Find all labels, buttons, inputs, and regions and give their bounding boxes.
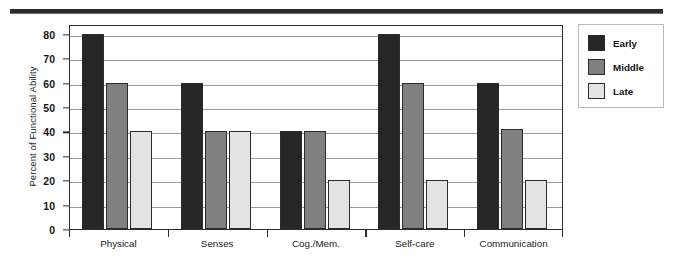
legend-item: Middle [588,59,644,75]
legend-label: Late [613,86,633,97]
bar-group [169,26,268,229]
legend-swatch [588,59,605,75]
bar [328,180,350,229]
bar [501,129,523,229]
bar [181,83,203,229]
x-tick-mark [464,230,465,237]
y-tick-label: 0 [49,224,55,236]
y-tick-label: 30 [43,151,55,163]
bar [402,83,424,229]
bar-group [268,26,367,229]
legend-swatch [588,35,605,51]
bar [525,180,547,229]
bars-layer [70,26,562,229]
y-tick-label: 10 [43,200,55,212]
plot-area [69,25,563,230]
y-axis-ticks: 01020304050607080 [0,0,69,265]
x-tick-mark [69,230,70,237]
bar-chart-figure: Percent of Functional Ability 0102030405… [0,0,673,265]
bar [205,131,227,229]
y-tick-label: 50 [43,102,55,114]
x-tick-mark [365,230,366,237]
bar [378,34,400,229]
bar-group [465,26,564,229]
bar [82,34,104,229]
x-axis-category-label: Senses [201,238,234,249]
bar [130,131,152,229]
chart-legend: EarlyMiddleLate [578,24,664,108]
y-tick-label: 60 [43,78,55,90]
bar-group [366,26,465,229]
legend-item: Late [588,83,633,99]
legend-label: Early [613,38,637,49]
x-tick-mark [267,230,268,237]
bar [229,131,251,229]
bar [477,83,499,229]
x-axis-category-label: Self-care [395,238,434,249]
bar-group [70,26,169,229]
y-tick-label: 40 [43,126,55,138]
x-axis-labels: PhysicalSensesCog./Mem.Self-careCommunic… [69,238,563,258]
bar [304,131,326,229]
y-tick-label: 80 [43,29,55,41]
x-tick-mark [168,230,169,237]
y-tick-label: 70 [43,53,55,65]
x-axis-category-label: Physical [100,238,136,249]
legend-label: Middle [613,62,644,73]
bar [426,180,448,229]
y-tick-label: 20 [43,175,55,187]
legend-swatch [588,83,605,99]
bar [280,131,302,229]
x-axis-category-label: Communication [480,238,548,249]
bar [106,83,128,229]
legend-item: Early [588,35,637,51]
x-tick-mark [562,230,563,237]
x-axis-category-label: Cog./Mem. [292,238,340,249]
